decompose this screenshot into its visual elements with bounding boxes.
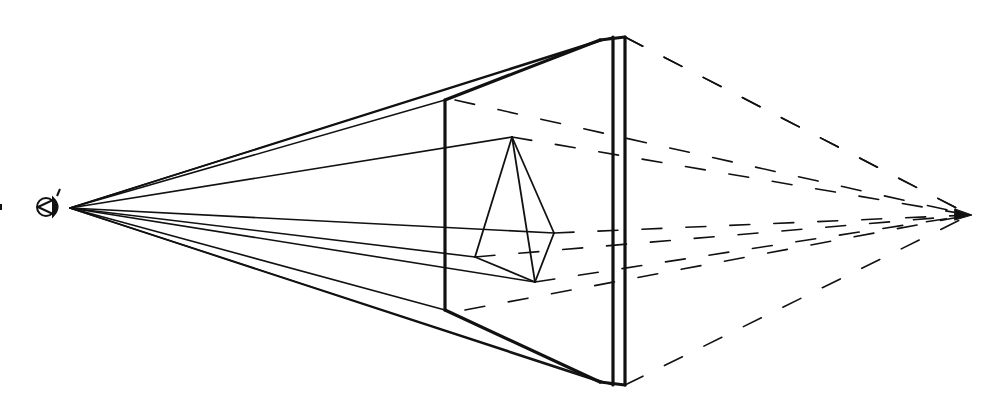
picture-plane [445, 40, 600, 382]
vanishing-point-marker [955, 209, 972, 220]
pyramid [475, 137, 554, 282]
diagram-canvas [0, 0, 996, 415]
margin-mark [0, 204, 2, 210]
perspective-diagram [0, 0, 996, 415]
eye-icon [37, 189, 60, 216]
frame [600, 37, 625, 385]
vanishing-lines [455, 37, 970, 385]
sight-lines [70, 37, 613, 385]
